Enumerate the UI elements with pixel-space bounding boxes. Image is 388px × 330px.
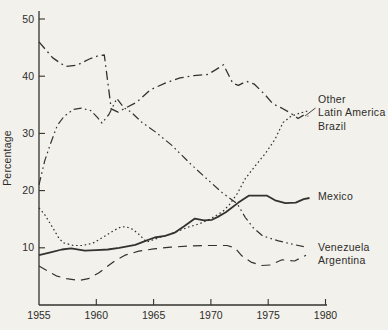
y-tick-label-20: 20 — [22, 184, 34, 196]
y-tick-label-10: 10 — [22, 241, 34, 253]
label-leader-other-latin-america — [305, 108, 316, 116]
x-tick-label-1975: 1975 — [257, 309, 281, 321]
x-tick-label-1980: 1980 — [314, 309, 338, 321]
series-line-argentina — [39, 246, 306, 281]
y-tick-label-40: 40 — [22, 70, 34, 82]
series-line-brazil — [39, 111, 307, 245]
series-label-other-latin-america: Other — [318, 93, 346, 105]
series-line-other-latin-america — [39, 42, 308, 119]
x-tick-label-1955: 1955 — [27, 309, 51, 321]
y-tick-label-50: 50 — [22, 13, 34, 25]
series-label-mexico: Mexico — [318, 190, 353, 202]
y-tick-label-30: 30 — [22, 127, 34, 139]
series-label-venezuela: Venezuela — [318, 241, 370, 253]
x-tick-label-1965: 1965 — [142, 309, 166, 321]
series-label-argentina: Argentina — [318, 254, 366, 266]
x-tick-label-1960: 1960 — [85, 309, 109, 321]
x-tick-label-1970: 1970 — [199, 309, 223, 321]
series-label-other-latin-america: Latin America — [318, 106, 386, 118]
series-line-mexico — [39, 196, 310, 256]
line-chart: 1020304050195519601965197019751980OtherL… — [0, 0, 388, 330]
series-label-brazil: Brazil — [318, 120, 346, 132]
series-line-venezuela — [39, 99, 306, 248]
y-axis-title: Percentage — [1, 127, 15, 189]
figure: Percentage 10203040501955196019651970197… — [0, 0, 388, 330]
